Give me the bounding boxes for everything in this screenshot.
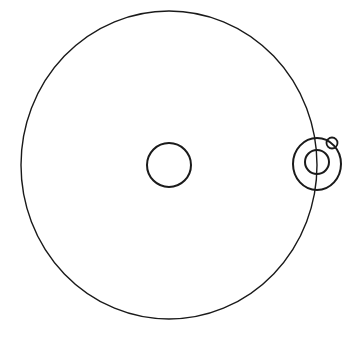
orbit-diagram (0, 0, 359, 337)
background (0, 0, 359, 337)
